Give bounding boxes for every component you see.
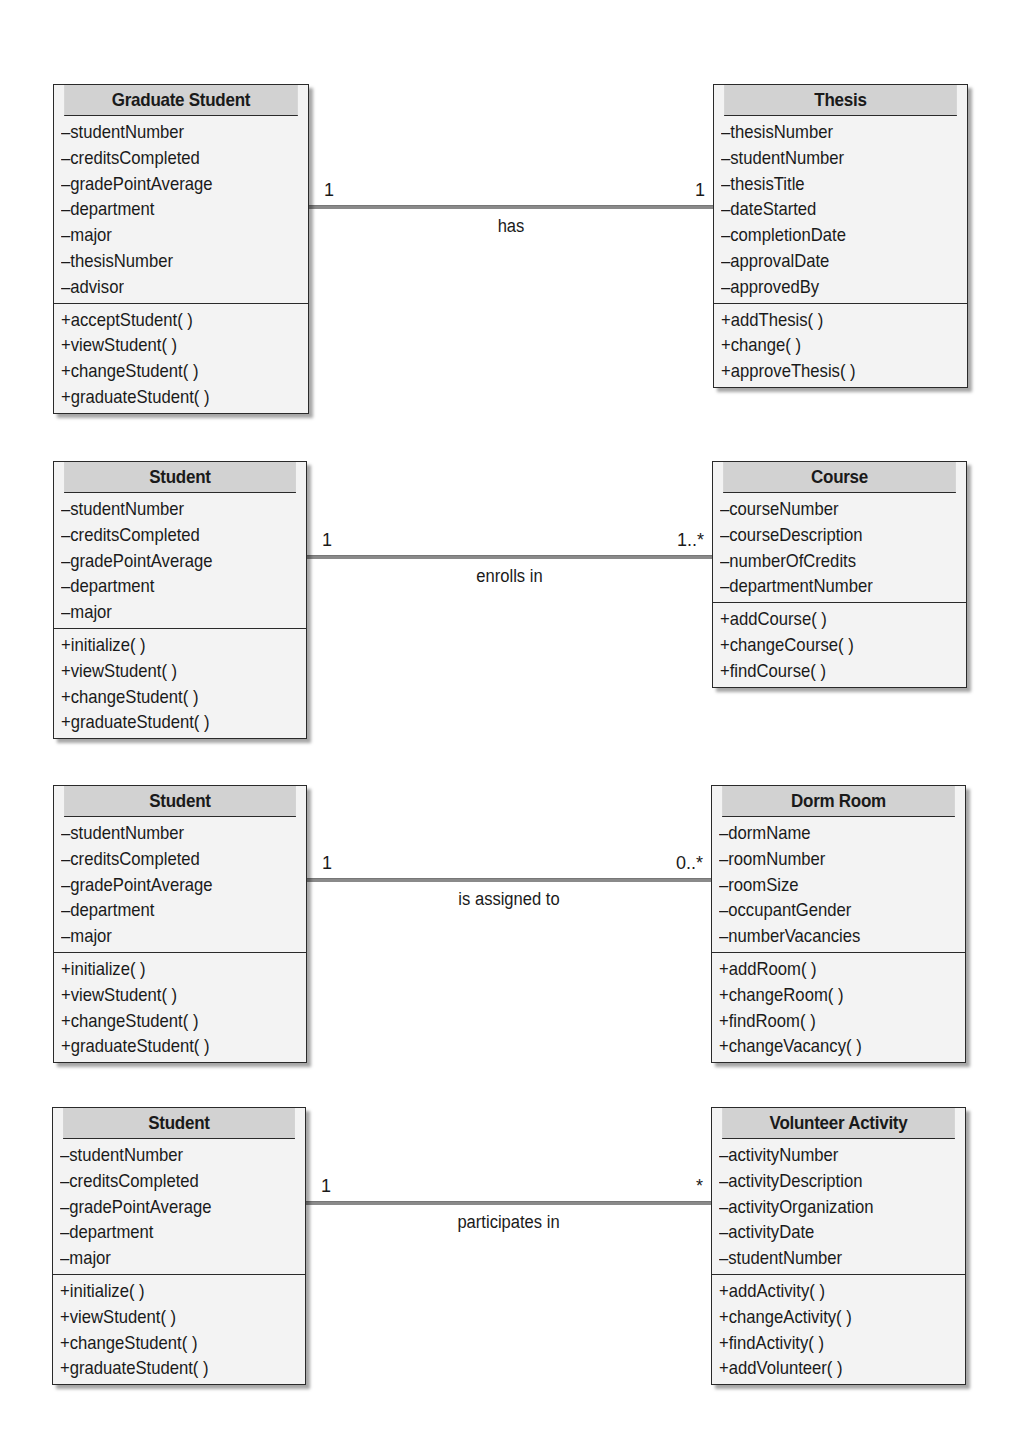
method: +addActivity( ) [719, 1278, 940, 1304]
left-multiplicity: 1 [321, 1176, 331, 1196]
class-name: Dorm Room [722, 786, 955, 817]
attributes-compartment: –activityNumber–activityDescription–acti… [712, 1139, 965, 1274]
attribute: –thesisTitle [721, 171, 942, 197]
attribute: –approvalDate [721, 248, 942, 274]
methods-compartment: +addThesis( )+change( )+approveThesis( ) [714, 303, 967, 387]
association-line [306, 1201, 711, 1205]
methods-compartment: +initialize( )+viewStudent( )+changeStud… [54, 628, 306, 738]
methods-compartment: +addActivity( )+changeActivity( )+findAc… [712, 1274, 965, 1384]
attribute: –studentNumber [61, 496, 282, 522]
class-box-student: Student–studentNumber–creditsCompleted–g… [53, 785, 307, 1063]
right-multiplicity: 1 [633, 180, 705, 200]
attribute: –gradePointAverage [61, 171, 283, 197]
attribute: –numberOfCredits [720, 548, 941, 574]
attribute: –dateStarted [721, 196, 942, 222]
attribute: –approvedBy [721, 274, 942, 300]
method: +initialize( ) [61, 956, 282, 982]
attributes-compartment: –studentNumber–creditsCompleted–gradePoi… [54, 116, 308, 303]
method: +findRoom( ) [719, 1008, 940, 1034]
right-multiplicity: 1..* [632, 530, 704, 550]
method: +changeStudent( ) [61, 358, 283, 384]
class-name: Student [63, 1108, 295, 1139]
attribute: –activityNumber [719, 1142, 940, 1168]
attribute: –departmentNumber [720, 573, 941, 599]
method: +changeRoom( ) [719, 982, 940, 1008]
method: +addThesis( ) [721, 307, 942, 333]
class-box-volunteer-activity: Volunteer Activity–activityNumber–activi… [711, 1107, 966, 1385]
method: +changeActivity( ) [719, 1304, 940, 1330]
attributes-compartment: –studentNumber–creditsCompleted–gradePoi… [54, 493, 306, 628]
class-box-dorm-room: Dorm Room–dormName–roomNumber–roomSize–o… [711, 785, 966, 1063]
method: +addCourse( ) [720, 606, 941, 632]
methods-compartment: +addRoom( )+changeRoom( )+findRoom( )+ch… [712, 952, 965, 1062]
class-box-student: Student–studentNumber–creditsCompleted–g… [52, 1107, 306, 1385]
attribute: –department [60, 1219, 281, 1245]
attribute: –creditsCompleted [60, 1168, 281, 1194]
attribute: –creditsCompleted [61, 522, 282, 548]
attribute: –numberVacancies [719, 923, 940, 949]
attribute: –courseDescription [720, 522, 941, 548]
attribute: –creditsCompleted [61, 145, 283, 171]
method: +findCourse( ) [720, 658, 941, 684]
attributes-compartment: –courseNumber–courseDescription–numberOf… [713, 493, 966, 602]
method: +approveThesis( ) [721, 358, 942, 384]
method: +addRoom( ) [719, 956, 940, 982]
methods-compartment: +initialize( )+viewStudent( )+changeStud… [53, 1274, 305, 1384]
attribute: –dormName [719, 820, 940, 846]
attribute: –gradePointAverage [61, 548, 282, 574]
attributes-compartment: –studentNumber–creditsCompleted–gradePoi… [53, 1139, 305, 1274]
attributes-compartment: –thesisNumber–studentNumber–thesisTitle–… [714, 116, 967, 303]
methods-compartment: +initialize( )+viewStudent( )+changeStud… [54, 952, 306, 1062]
method: +changeStudent( ) [60, 1330, 281, 1356]
method: +initialize( ) [61, 632, 282, 658]
class-name: Student [64, 786, 296, 817]
class-name: Graduate Student [64, 85, 298, 116]
left-multiplicity: 1 [324, 180, 334, 200]
method: +initialize( ) [60, 1278, 281, 1304]
class-box-thesis: Thesis–thesisNumber–studentNumber–thesis… [713, 84, 968, 388]
method: +graduateStudent( ) [61, 709, 282, 735]
left-multiplicity: 1 [322, 530, 332, 550]
attribute: –gradePointAverage [60, 1194, 281, 1220]
attribute: –activityDescription [719, 1168, 940, 1194]
attribute: –department [61, 196, 283, 222]
class-name: Thesis [724, 85, 957, 116]
method: +viewStudent( ) [61, 982, 282, 1008]
method: +changeVacancy( ) [719, 1033, 940, 1059]
association-line [307, 878, 711, 882]
attributes-compartment: –studentNumber–creditsCompleted–gradePoi… [54, 817, 306, 952]
association-label: participates in [322, 1212, 695, 1233]
method: +graduateStudent( ) [61, 384, 283, 410]
attribute: –major [61, 222, 283, 248]
left-multiplicity: 1 [322, 853, 332, 873]
method: +viewStudent( ) [61, 332, 283, 358]
attribute: –activityOrganization [719, 1194, 940, 1220]
attribute: –roomNumber [719, 846, 940, 872]
association-line [309, 205, 713, 209]
attribute: –department [61, 573, 282, 599]
method: +graduateStudent( ) [61, 1033, 282, 1059]
class-name: Volunteer Activity [722, 1108, 955, 1139]
methods-compartment: +addCourse( )+changeCourse( )+findCourse… [713, 602, 966, 686]
method: +findActivity( ) [719, 1330, 940, 1356]
attribute: –major [61, 923, 282, 949]
attribute: –gradePointAverage [61, 872, 282, 898]
association-label: enrolls in [323, 566, 696, 587]
attribute: –advisor [61, 274, 283, 300]
method: +changeStudent( ) [61, 1008, 282, 1034]
attribute: –roomSize [719, 872, 940, 898]
class-box-graduate-student: Graduate Student–studentNumber–creditsCo… [53, 84, 309, 414]
method: +change( ) [721, 332, 942, 358]
attribute: –studentNumber [60, 1142, 281, 1168]
class-name: Course [723, 462, 956, 493]
method: +graduateStudent( ) [60, 1355, 281, 1381]
right-multiplicity: 0..* [631, 853, 703, 873]
method: +changeCourse( ) [720, 632, 941, 658]
attribute: –courseNumber [720, 496, 941, 522]
class-box-student: Student–studentNumber–creditsCompleted–g… [53, 461, 307, 739]
method: +acceptStudent( ) [61, 307, 283, 333]
attribute: –completionDate [721, 222, 942, 248]
attribute: –studentNumber [61, 119, 283, 145]
attribute: –occupantGender [719, 897, 940, 923]
class-box-course: Course–courseNumber–courseDescription–nu… [712, 461, 967, 688]
